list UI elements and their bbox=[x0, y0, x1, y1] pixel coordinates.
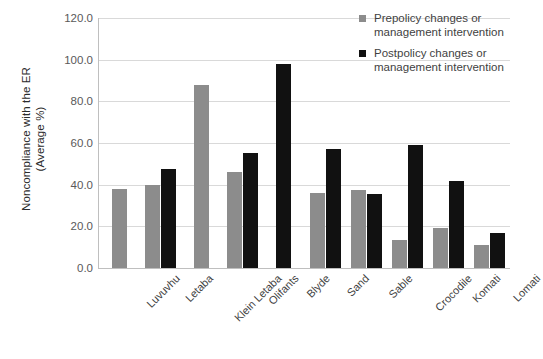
bar-group bbox=[140, 18, 181, 268]
legend-label: Postpolicy changes or management interve… bbox=[374, 46, 504, 74]
y-tick-label: 120.0 bbox=[47, 12, 93, 24]
bar-postpolicy[interactable] bbox=[326, 149, 341, 268]
bar-group bbox=[305, 18, 346, 268]
x-tick-label: Komati bbox=[470, 272, 503, 305]
legend-item[interactable]: Prepolicy changes or management interven… bbox=[359, 11, 520, 39]
y-tick-label: 40.0 bbox=[47, 179, 93, 191]
legend-label: Prepolicy changes or management interven… bbox=[374, 11, 504, 39]
bar-prepolicy[interactable] bbox=[474, 245, 489, 268]
x-tick-label: Lomati bbox=[511, 272, 543, 304]
bar-postpolicy[interactable] bbox=[408, 145, 423, 268]
x-axis-tick-labels: LuvuvhuLetabaKlein LetabaOlifantsBlydeSa… bbox=[99, 272, 510, 358]
bar-postpolicy[interactable] bbox=[276, 64, 291, 268]
bar-group bbox=[263, 18, 304, 268]
bar-prepolicy[interactable] bbox=[433, 228, 448, 268]
x-tick-label: Luvuvhu bbox=[144, 272, 182, 310]
legend-swatch-post-icon bbox=[359, 50, 366, 57]
x-tick-label: Sable bbox=[386, 272, 414, 300]
y-tick-label: 100.0 bbox=[47, 54, 93, 66]
bar-postpolicy[interactable] bbox=[367, 194, 382, 268]
x-tick-label: Crocodile bbox=[433, 272, 474, 313]
legend-swatch-pre-icon bbox=[359, 15, 366, 22]
x-tick-label: Letaba bbox=[182, 272, 214, 304]
bar-prepolicy[interactable] bbox=[227, 172, 242, 268]
y-tick-label: 80.0 bbox=[47, 95, 93, 107]
x-tick-label: Sand bbox=[345, 272, 372, 299]
bar-group bbox=[181, 18, 222, 268]
y-axis-tick-labels: 0.020.040.060.080.0100.0120.0 bbox=[43, 18, 93, 268]
legend-item[interactable]: Postpolicy changes or management interve… bbox=[359, 46, 520, 74]
bar-group bbox=[99, 18, 140, 268]
bar-postpolicy[interactable] bbox=[243, 153, 258, 268]
bar-postpolicy[interactable] bbox=[490, 233, 505, 268]
bar-prepolicy[interactable] bbox=[351, 190, 366, 268]
bar-prepolicy[interactable] bbox=[310, 193, 325, 268]
bar-prepolicy[interactable] bbox=[112, 189, 127, 268]
chart-legend: Prepolicy changes or management interven… bbox=[359, 11, 520, 81]
bar-prepolicy[interactable] bbox=[392, 240, 407, 268]
y-tick-label: 60.0 bbox=[47, 137, 93, 149]
bar-prepolicy[interactable] bbox=[145, 185, 160, 268]
bar-postpolicy[interactable] bbox=[449, 181, 464, 269]
y-tick-label: 20.0 bbox=[47, 220, 93, 232]
bar-group bbox=[222, 18, 263, 268]
gridline bbox=[99, 268, 510, 269]
bar-postpolicy[interactable] bbox=[161, 169, 176, 268]
y-tick-label: 0.0 bbox=[47, 262, 93, 274]
x-tick-label: Blyde bbox=[304, 272, 332, 300]
bar-prepolicy[interactable] bbox=[194, 85, 209, 268]
